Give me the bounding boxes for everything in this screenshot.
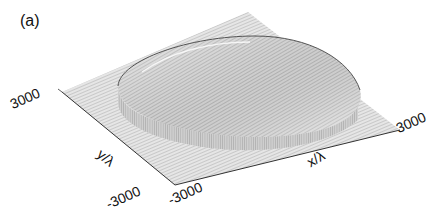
surface-plot (0, 0, 447, 220)
